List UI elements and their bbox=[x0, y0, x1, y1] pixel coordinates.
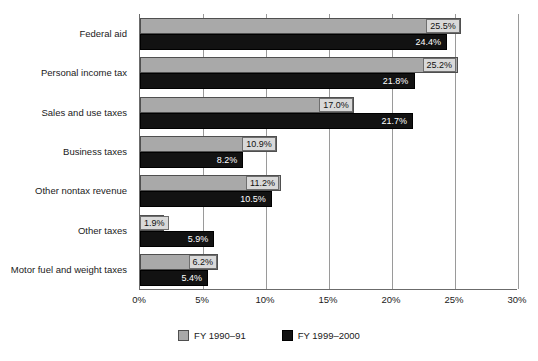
x-tick-label: 20% bbox=[371, 294, 411, 305]
bar-fy1999-2000 bbox=[140, 34, 447, 50]
category-label: Business taxes bbox=[63, 146, 133, 157]
category-label: Other taxes bbox=[78, 225, 133, 236]
bar-group: 17.0%21.7% bbox=[140, 97, 517, 129]
x-tick-label: 5% bbox=[182, 294, 222, 305]
bar-value-label: 5.4% bbox=[178, 272, 205, 284]
bar-value-label: 10.5% bbox=[237, 193, 269, 205]
bar-group: 1.9%5.9% bbox=[140, 215, 517, 247]
legend-item[interactable]: FY 1999–2000 bbox=[282, 330, 360, 341]
gridline-30 bbox=[518, 14, 519, 289]
bar-value-label: 10.9% bbox=[242, 137, 276, 151]
category-label: Personal income tax bbox=[41, 67, 133, 78]
x-tick-label: 30% bbox=[497, 294, 537, 305]
x-tick-label: 10% bbox=[245, 294, 285, 305]
grouped-bar-chart: Federal aidPersonal income taxSales and … bbox=[0, 0, 538, 361]
category-axis-labels: Federal aidPersonal income taxSales and … bbox=[0, 14, 133, 290]
bar-group: 25.5%24.4% bbox=[140, 18, 517, 50]
category-label: Motor fuel and weight taxes bbox=[11, 264, 133, 275]
legend-label: FY 1999–2000 bbox=[298, 330, 360, 341]
bar-group: 25.2%21.8% bbox=[140, 57, 517, 89]
bar-fy1990-91 bbox=[140, 18, 461, 34]
x-tick-label: 25% bbox=[434, 294, 474, 305]
bar-value-label: 5.9% bbox=[185, 233, 212, 245]
bar-value-label: 8.2% bbox=[214, 154, 241, 166]
bar-fy1999-2000 bbox=[140, 113, 413, 129]
bar-value-label: 21.8% bbox=[380, 75, 412, 87]
x-tick-label: 15% bbox=[308, 294, 348, 305]
bar-group: 10.9%8.2% bbox=[140, 136, 517, 168]
x-tick-label: 0% bbox=[119, 294, 159, 305]
bar-value-label: 17.0% bbox=[319, 98, 353, 112]
legend-swatch-icon bbox=[282, 330, 293, 341]
bar-value-label: 11.2% bbox=[246, 176, 279, 190]
bar-fy1999-2000 bbox=[140, 73, 415, 89]
bar-value-label: 1.9% bbox=[140, 216, 169, 230]
bar-value-label: 25.2% bbox=[423, 58, 457, 72]
bar-fy1990-91 bbox=[140, 57, 458, 73]
bar-value-label: 24.4% bbox=[412, 36, 444, 48]
bar-value-label: 21.7% bbox=[378, 115, 410, 127]
legend-swatch-icon bbox=[178, 330, 189, 341]
legend-label: FY 1990–91 bbox=[194, 330, 246, 341]
category-label: Federal aid bbox=[79, 28, 133, 39]
chart-legend: FY 1990–91FY 1999–2000 bbox=[0, 330, 538, 341]
bar-value-label: 6.2% bbox=[189, 255, 218, 269]
category-label: Other nontax revenue bbox=[35, 185, 133, 196]
legend-item[interactable]: FY 1990–91 bbox=[178, 330, 246, 341]
plot-area: 25.5%24.4%25.2%21.8%17.0%21.7%10.9%8.2%1… bbox=[139, 14, 517, 290]
bar-group: 11.2%10.5% bbox=[140, 175, 517, 207]
bar-value-label: 25.5% bbox=[426, 19, 460, 33]
bar-group: 6.2%5.4% bbox=[140, 254, 517, 286]
category-label: Sales and use taxes bbox=[41, 107, 133, 118]
